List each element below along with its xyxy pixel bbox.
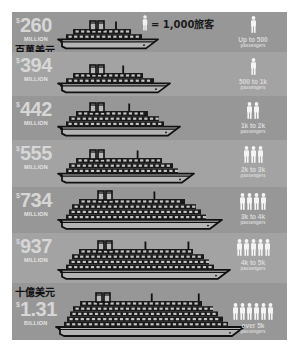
capacity-range: Up to 500 [221,36,285,43]
passenger-icons [233,16,273,33]
dollar-sign: $ [16,238,20,245]
person-icon [257,239,264,256]
cruise-ship-icon [56,240,232,281]
passengers-caption: passengers [221,129,285,134]
ship-illustration [56,102,182,142]
chart-row: $734MILLION3k to 4kpassengers [12,187,287,233]
passengers-caption: passengers [221,43,285,48]
capacity-label: 4k to 5kpassengers [221,259,285,271]
person-icon [253,193,260,210]
cruise-ship-icon [54,292,246,338]
passengers-caption: passengers [221,329,285,334]
cost-value: $555 [16,143,52,164]
person-icon [250,239,257,256]
chart-row: 十億美元$1.31BILLIONover 5kpassengers [12,283,287,340]
capacity-range: 4k to 5k [221,259,285,266]
passenger-icons [222,239,284,256]
capacity-range: 500 to 1k [221,78,285,85]
cost-number: 937 [20,235,52,257]
person-icon [253,303,260,320]
person-icon [243,146,250,163]
person-icon [236,239,243,256]
legend-text: = 1,000旅客 [151,16,215,31]
capacity-range: over 5k [221,322,285,329]
person-icon [267,303,274,320]
person-icon [260,303,267,320]
cost-number: 1.31 [20,298,57,320]
chart-row: $442MILLION1k to 2kpassengers [12,96,287,140]
person-icon [260,193,267,210]
capacity-label: Up to 500passengers [221,36,285,48]
cruise-ship-icon [56,149,196,185]
person-icon [142,15,148,31]
chart-row: $555MILLION2k to 3kpassengers [12,140,287,187]
chart-row: $937MILLION4k to 5kpassengers [12,233,287,283]
person-icon [264,239,271,256]
cost-value: $260 [16,15,52,36]
cruise-ship-icon [56,102,182,138]
capacity-range: 3k to 4k [221,213,285,220]
capacity-range: 1k to 2k [221,122,285,129]
cost-value: $734 [16,190,52,211]
ship-illustration [56,240,232,285]
capacity-label: over 5kpassengers [221,322,285,334]
person-icon [250,16,257,33]
person-icon [246,102,253,119]
passengers-caption: passengers [221,266,285,271]
ship-illustration [56,149,196,189]
legend: = 1,000旅客 [142,15,215,31]
infographic-panel: $260MILLION百萬美元Up to 500passengers$394MI… [12,12,287,340]
cost-value: $442 [16,99,52,120]
ship-illustration [54,292,246,340]
person-icon [243,239,250,256]
passengers-caption: passengers [221,85,285,90]
cost-number: 442 [20,98,52,120]
capacity-label: 500 to 1kpassengers [221,78,285,90]
cost-unit: MILLION [24,257,48,263]
cost-value: $937 [16,236,52,257]
person-icon [246,193,253,210]
dollar-sign: $ [16,145,20,152]
capacity-label: 3k to 4kpassengers [221,213,285,225]
passenger-icons [222,303,284,320]
person-icon [250,146,257,163]
person-icon [232,303,239,320]
passenger-icons [233,102,273,119]
passenger-icons [233,193,273,210]
cost-number: 260 [20,14,52,36]
cost-value: $394 [16,55,52,76]
cost-number: 394 [20,54,52,76]
ship-illustration [56,190,224,235]
cost-unit: MILLION [24,76,48,82]
person-icon [257,146,264,163]
passengers-caption: passengers [221,220,285,225]
cost-number: 734 [20,189,52,211]
cruise-ship-icon [56,64,172,94]
passenger-icons [233,58,273,75]
capacity-label: 1k to 2kpassengers [221,122,285,134]
passengers-caption: passengers [221,173,285,178]
cost-unit: MILLION [24,211,48,217]
person-icon [239,193,246,210]
dollar-sign: $ [16,57,20,64]
dollar-sign: $ [16,301,20,308]
person-icon [239,303,246,320]
person-icon [246,303,253,320]
dollar-sign: $ [16,101,20,108]
chart-row: $394MILLION500 to 1kpassengers [12,52,287,96]
capacity-range: 2k to 3k [221,166,285,173]
cost-unit: MILLION [24,120,48,126]
person-icon [253,102,260,119]
ship-illustration [56,64,172,98]
cruise-ship-icon [56,190,224,231]
dollar-sign: $ [16,192,20,199]
passenger-icons [233,146,273,163]
dollar-sign: $ [16,17,20,24]
cost-unit: BILLION [24,320,47,326]
cost-unit: MILLION [24,164,48,170]
cost-value: $1.31 [16,299,57,320]
billion-label-cn: 十億美元 [15,284,55,299]
capacity-label: 2k to 3kpassengers [221,166,285,178]
cost-number: 555 [20,142,52,164]
person-icon [250,58,257,75]
